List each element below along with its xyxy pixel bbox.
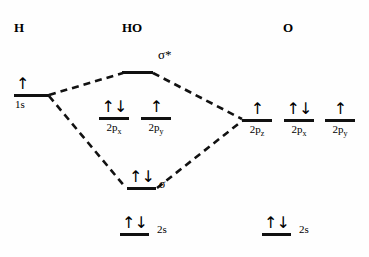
column-header-h: H — [14, 20, 24, 36]
orbital-label-h-1s: 1s — [15, 98, 25, 110]
level-line-o-2px — [284, 119, 314, 122]
electrons-o-2py: ↑ — [325, 96, 355, 116]
correlation-sigma-to-o2pz — [157, 121, 242, 188]
electrons-sigma: ↑↓ — [127, 164, 156, 184]
orbital-label-text: 2p — [250, 123, 261, 135]
orbital-label-o-2s: 2s — [299, 223, 309, 235]
orbital-label-sigma-star: σ* — [158, 47, 172, 63]
level-line-h-1s — [14, 94, 49, 97]
level-line-ho-2s — [120, 233, 149, 236]
column-header-ho: HO — [122, 20, 142, 36]
electron-arrow: ↑ — [251, 102, 263, 116]
electrons-ho-2s: ↑↓ — [120, 210, 149, 230]
orbital-label-o-2pz: 2pz — [250, 123, 265, 138]
electrons-ho-2px: ↑↓ — [99, 94, 129, 114]
orbital-label-subscript: z — [261, 129, 265, 138]
orbital-label-text: 2p — [292, 123, 303, 135]
orbital-label-o-2px: 2px — [292, 123, 307, 138]
mo-diagram: H HO O ↑ 1s σ* ↑↓ 2px ↑ 2py — [0, 0, 369, 257]
level-line-ho-2px — [99, 117, 129, 120]
electron-arrow: ↑↓ — [102, 100, 127, 114]
electrons-o-2s: ↑↓ — [262, 210, 291, 230]
orbital-label-ho-2py: 2py — [149, 121, 164, 136]
level-line-o-2py — [325, 119, 355, 122]
orbital-label-subscript: y — [344, 129, 348, 138]
correlation-lines — [0, 0, 369, 257]
correlation-h1s-to-sigma-star — [49, 73, 123, 95]
electrons-o-2pz: ↑ — [242, 96, 272, 116]
electron-arrow: ↑↓ — [122, 216, 147, 230]
electron-arrow: ↑ — [334, 102, 346, 116]
electron-arrow: ↑ — [150, 100, 162, 114]
orbital-label-ho-2px: 2px — [107, 121, 122, 136]
level-line-o-2s — [262, 233, 291, 236]
electrons-ho-2py: ↑ — [141, 94, 171, 114]
orbital-label-sigma: σ — [159, 177, 165, 192]
orbital-label-o-2py: 2py — [333, 123, 348, 138]
level-line-sigma — [127, 187, 156, 190]
orbital-label-subscript: x — [118, 127, 122, 136]
orbital-label-text: 2p — [333, 123, 344, 135]
level-line-o-2pz — [242, 119, 272, 122]
orbital-label-text: 2p — [149, 121, 160, 133]
orbital-label-subscript: y — [160, 127, 164, 136]
level-line-ho-2py — [141, 117, 171, 120]
electrons-h-1s: ↑ — [14, 71, 28, 91]
electron-arrow: ↑↓ — [287, 102, 312, 116]
electrons-o-2px: ↑↓ — [284, 96, 314, 116]
electron-arrow: ↑↓ — [264, 216, 289, 230]
level-line-sigma-star — [122, 71, 153, 74]
electron-arrow: ↑↓ — [129, 170, 154, 184]
column-header-o: O — [283, 20, 293, 36]
electron-arrow: ↑ — [16, 77, 28, 91]
correlation-h1s-to-sigma — [49, 96, 126, 188]
orbital-label-text: 2p — [107, 121, 118, 133]
orbital-label-ho-2s: 2s — [157, 223, 167, 235]
orbital-label-subscript: x — [303, 129, 307, 138]
correlation-sigma-star-to-o2pz — [153, 73, 242, 119]
